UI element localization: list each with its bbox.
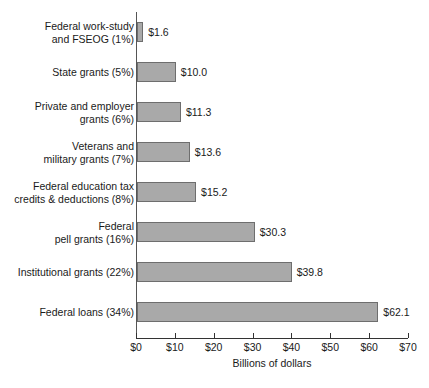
category-label: Federal pell grants (16%) — [4, 220, 134, 245]
category-label: Federal loans (34%) — [4, 306, 134, 319]
x-axis-tick-label: $70 — [399, 341, 417, 354]
category-label: Veterans and military grants (7%) — [4, 140, 134, 165]
x-axis-line — [136, 338, 408, 339]
x-axis-tick-label: $30 — [244, 341, 262, 354]
x-axis-tick-label: $20 — [205, 341, 223, 354]
bar-value-label: $30.3 — [260, 226, 286, 238]
bar-value-label: $15.2 — [201, 186, 227, 198]
x-axis-tick-label: $40 — [283, 341, 301, 354]
x-axis-tick-label: $0 — [130, 341, 142, 354]
bar — [137, 222, 255, 242]
category-label: State grants (5%) — [4, 66, 134, 79]
category-label: Private and employer grants (6%) — [4, 100, 134, 125]
category-label: Institutional grants (22%) — [4, 266, 134, 279]
x-axis-tick-label: $50 — [322, 341, 340, 354]
category-label: Federal education tax credits & deductio… — [4, 180, 134, 205]
bar-value-label: $13.6 — [195, 146, 221, 158]
bar-row: Veterans and military grants (7%)$13.6 — [0, 132, 429, 172]
x-axis-tick — [291, 333, 292, 338]
bar — [137, 302, 378, 322]
x-axis-tick-label: $60 — [360, 341, 378, 354]
bar — [137, 142, 190, 162]
bar-row: Institutional grants (22%)$39.8 — [0, 252, 429, 292]
bar-value-label: $11.3 — [186, 106, 212, 118]
bar — [137, 262, 292, 282]
x-axis-tick — [214, 333, 215, 338]
bar-value-label: $1.6 — [148, 26, 168, 38]
x-axis-tick — [136, 333, 137, 338]
x-axis-tick — [253, 333, 254, 338]
bar-row: Federal loans (34%)$62.1 — [0, 292, 429, 332]
x-axis-tick — [369, 333, 370, 338]
bar-row: Federal work-study and FSEOG (1%)$1.6 — [0, 12, 429, 52]
x-axis-tick — [330, 333, 331, 338]
bar-row: Federal education tax credits & deductio… — [0, 172, 429, 212]
bar — [137, 182, 196, 202]
bar — [137, 22, 143, 42]
x-axis-tick — [408, 333, 409, 338]
category-label: Federal work-study and FSEOG (1%) — [4, 20, 134, 45]
bar-row: Private and employer grants (6%)$11.3 — [0, 92, 429, 132]
bar-value-label: $10.0 — [181, 66, 207, 78]
bar — [137, 102, 181, 122]
bar-row: State grants (5%)$10.0 — [0, 52, 429, 92]
x-axis-tick — [175, 333, 176, 338]
bar-value-label: $39.8 — [297, 266, 323, 278]
x-axis-title: Billions of dollars — [136, 357, 408, 370]
bar-chart: Federal work-study and FSEOG (1%)$1.6Sta… — [0, 0, 429, 388]
bar-row: Federal pell grants (16%)$30.3 — [0, 212, 429, 252]
bar — [137, 62, 176, 82]
x-axis-tick-label: $10 — [166, 341, 184, 354]
bar-value-label: $62.1 — [383, 306, 409, 318]
